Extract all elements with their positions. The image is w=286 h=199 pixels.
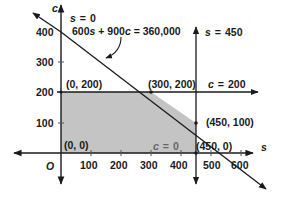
c-eq-200-label: c=200 [208, 78, 246, 90]
x-tick-600: 600 [231, 159, 249, 171]
point-label-0-200: (0, 200) [66, 78, 102, 90]
c-axis-label: c [52, 2, 58, 14]
x-tick-500: 500 [203, 159, 221, 171]
s-eq-0-label: s=0 [70, 12, 96, 24]
y-tick-300: 300 [36, 56, 54, 68]
constraint-label: 600s + 900c = 360,000 [72, 25, 181, 37]
x-tick-200: 200 [110, 159, 128, 171]
vertex-0-200 [59, 90, 62, 93]
point-label-450-100: (450, 100) [206, 116, 254, 128]
y-tick-100: 100 [36, 117, 54, 129]
equation-pointer [106, 37, 121, 58]
vertex-450-100 [194, 121, 198, 125]
x-tick-300: 300 [140, 159, 158, 171]
s-axis-label: s [261, 141, 267, 153]
point-label-300-200: (300, 200) [148, 78, 196, 90]
point-label-0-0: (0, 0) [64, 139, 89, 151]
x-tick-100: 100 [80, 159, 98, 171]
s-eq-450-label: s=450 [205, 26, 243, 38]
vertex-300-200 [149, 90, 153, 94]
c-eq-0-label: c=0 [153, 140, 179, 152]
origin-label: O [46, 160, 54, 172]
x-tick-400: 400 [170, 159, 188, 171]
linear-programming-chart: c s O s=0 600s + 900c = 360,000 s=450 c=… [0, 0, 286, 199]
y-tick-200: 200 [36, 86, 54, 98]
point-label-450-0: (450, 0) [196, 140, 232, 152]
y-tick-400: 400 [36, 26, 54, 38]
